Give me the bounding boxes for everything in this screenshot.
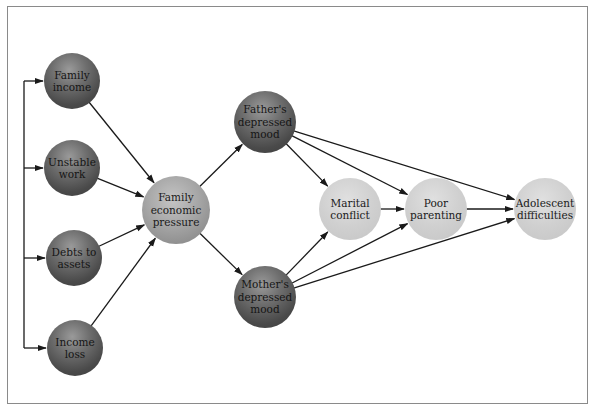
node-fathers-depressed-mood: Father's depressed mood xyxy=(234,91,296,153)
edge-mothers-depressed-mood-to-marital-conflict xyxy=(286,232,328,275)
node-family-economic-pressure: Family economic pressure xyxy=(142,176,210,244)
node-label: Mother's depressed mood xyxy=(238,278,293,316)
node-label: Poor parenting xyxy=(410,197,462,222)
node-poor-parenting: Poor parenting xyxy=(405,178,467,240)
input-bracket xyxy=(24,81,46,348)
node-label: Family economic pressure xyxy=(151,191,202,229)
node-label: Father's depressed mood xyxy=(238,103,293,141)
edge-family-economic-pressure-to-mothers-depressed-mood xyxy=(200,233,243,275)
edge-fathers-depressed-mood-to-marital-conflict xyxy=(286,143,328,186)
node-unstable-work: Unstable work xyxy=(44,140,100,196)
node-label: Marital conflict xyxy=(330,197,369,222)
node-label: Unstable work xyxy=(48,156,96,181)
node-family-income: Family income xyxy=(44,53,100,109)
edge-debts-to-assets-to-family-economic-pressure xyxy=(98,225,144,247)
edge-family-economic-pressure-to-fathers-depressed-mood xyxy=(199,144,242,186)
node-label: Income loss xyxy=(55,336,94,361)
node-adolescent-difficulties: Adolescent difficulties xyxy=(514,178,576,240)
edge-unstable-work-to-family-economic-pressure xyxy=(97,178,144,197)
node-debts-to-assets: Debts to assets xyxy=(46,230,102,286)
node-label: Debts to assets xyxy=(52,246,97,271)
node-label: Family income xyxy=(53,69,92,94)
node-income-loss: Income loss xyxy=(47,320,103,376)
node-marital-conflict: Marital conflict xyxy=(319,178,381,240)
node-mothers-depressed-mood: Mother's depressed mood xyxy=(234,266,296,328)
node-label: Adolescent difficulties xyxy=(516,197,575,222)
